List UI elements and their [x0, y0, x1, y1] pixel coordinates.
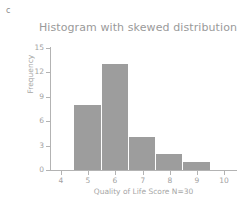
x-tick-mark — [170, 171, 171, 175]
plot-area — [50, 48, 235, 170]
x-tick-label: 4 — [51, 176, 71, 185]
y-tick-label: 6 — [20, 117, 44, 125]
y-tick-mark — [46, 97, 50, 98]
x-tick-mark — [143, 171, 144, 175]
x-tick-label: 9 — [187, 176, 207, 185]
y-tick-mark — [46, 72, 50, 73]
y-tick-mark — [46, 121, 50, 122]
y-tick-label: 15 — [20, 44, 44, 52]
x-tick-mark — [88, 171, 89, 175]
x-tick-mark — [197, 171, 198, 175]
histogram-bar — [183, 162, 209, 170]
y-tick-label: 3 — [20, 142, 44, 150]
x-tick-label: 10 — [214, 176, 234, 185]
x-axis-title: Quality of Life Score N=30 — [50, 187, 237, 196]
x-tick-label: 5 — [78, 176, 98, 185]
y-tick-mark — [46, 48, 50, 49]
histogram-figure: c Histogram with skewed distribution 036… — [0, 0, 250, 202]
x-tick-mark — [115, 171, 116, 175]
histogram-bar — [74, 105, 100, 170]
y-tick-label: 9 — [20, 93, 44, 101]
y-tick-mark — [46, 170, 50, 171]
panel-label: c — [6, 6, 11, 16]
x-tick-label: 6 — [105, 176, 125, 185]
histogram-bar — [129, 137, 155, 170]
chart-title: Histogram with skewed distribution — [30, 21, 246, 34]
x-tick-label: 8 — [160, 176, 180, 185]
y-tick-label: 0 — [20, 166, 44, 174]
x-tick-mark — [61, 171, 62, 175]
histogram-bar — [102, 64, 128, 170]
y-axis-line — [50, 47, 51, 171]
y-tick-mark — [46, 146, 50, 147]
histogram-bar — [156, 154, 182, 170]
x-tick-label: 7 — [133, 176, 153, 185]
x-tick-mark — [224, 171, 225, 175]
y-axis-title: Frequency — [26, 82, 35, 94]
